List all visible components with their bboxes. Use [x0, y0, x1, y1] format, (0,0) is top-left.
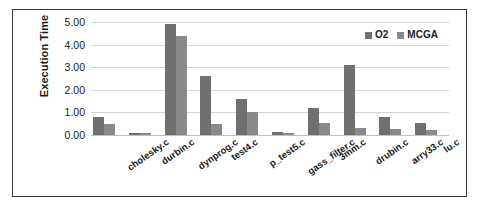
- y-tick-label: 2.00: [65, 85, 85, 96]
- bar-mcga-7: [355, 128, 366, 135]
- x-tick-label: arry33.c: [410, 137, 445, 166]
- legend-item-mcga[interactable]: MCGA: [397, 30, 438, 40]
- x-tick-label: p_test5.c: [267, 137, 306, 168]
- bar-mcga-8: [390, 129, 401, 135]
- bar-o2-9: [415, 123, 426, 135]
- bar-mcga-3: [211, 124, 222, 135]
- chart-container: Execution Time 0.001.002.003.004.005.00 …: [12, 9, 467, 197]
- y-tick-label: 4.00: [65, 39, 85, 50]
- y-tick-label: 3.00: [65, 62, 85, 73]
- bar-o2-6: [308, 108, 319, 135]
- x-axis-labels: cholesky.cdurbin.cdynprog.ctest4.cp_test…: [91, 137, 449, 195]
- bar-mcga-5: [283, 133, 294, 135]
- bar-group: [234, 22, 270, 135]
- bar-o2-2: [165, 24, 176, 135]
- bar-group: [127, 22, 163, 135]
- legend-item-o2[interactable]: O2: [365, 30, 388, 40]
- bar-group: [270, 22, 306, 135]
- bar-group: [198, 22, 234, 135]
- bar-mcga-9: [426, 130, 437, 135]
- gridline: [91, 135, 449, 136]
- bar-o2-4: [236, 99, 247, 135]
- bar-o2-5: [272, 132, 283, 135]
- bar-group: [306, 22, 342, 135]
- bar-mcga-0: [104, 124, 115, 135]
- legend-swatch-icon: [397, 32, 404, 39]
- bar-group: [163, 22, 199, 135]
- x-tick-label: drubin.c: [374, 137, 410, 166]
- bar-mcga-6: [319, 123, 330, 135]
- bar-o2-7: [344, 65, 355, 135]
- bar-o2-0: [93, 117, 104, 135]
- bar-mcga-2: [176, 36, 187, 135]
- bar-mcga-1: [140, 133, 151, 135]
- legend-label: MCGA: [407, 30, 438, 40]
- x-tick-label: lu.c: [442, 137, 461, 154]
- legend-swatch-icon: [365, 32, 372, 39]
- legend-label: O2: [375, 30, 388, 40]
- bar-mcga-4: [247, 112, 258, 135]
- bar-o2-8: [379, 117, 390, 135]
- bar-o2-3: [200, 76, 211, 135]
- bar-o2-1: [129, 133, 140, 135]
- chart-legend: O2MCGA: [365, 30, 438, 40]
- y-axis-title: Execution Time: [38, 1, 54, 111]
- y-tick-label: 0.00: [65, 130, 85, 141]
- bar-group: [91, 22, 127, 135]
- y-tick-label: 1.00: [65, 107, 85, 118]
- y-tick-label: 5.00: [65, 17, 85, 28]
